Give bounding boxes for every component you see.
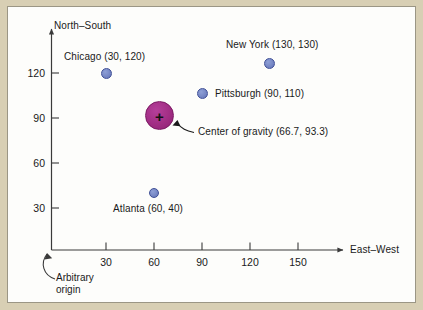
data-label-new-york: New York (130, 130) xyxy=(226,39,319,50)
data-label-pittsburgh: Pittsburgh (90, 110) xyxy=(215,88,304,99)
data-label-chicago: Chicago (30, 120) xyxy=(64,51,145,62)
data-point-center-of-gravity[interactable]: + xyxy=(145,101,174,130)
plot-panel: North–South East–West 120 90 60 30 30 60… xyxy=(7,6,416,303)
x-tick-label-30: 30 xyxy=(91,256,121,268)
x-tick-label-150: 150 xyxy=(283,256,313,268)
data-label-atlanta: Atlanta (60, 40) xyxy=(113,203,183,214)
y-tick-label-60: 60 xyxy=(15,157,45,169)
x-tick-label-90: 90 xyxy=(187,256,217,268)
x-tick-label-120: 120 xyxy=(235,256,265,268)
x-axis-label: East–West xyxy=(350,244,399,255)
y-tick-label-90: 90 xyxy=(15,112,45,124)
data-point-atlanta[interactable] xyxy=(149,188,159,198)
data-point-chicago[interactable] xyxy=(101,68,112,79)
arbitrary-origin-line1: Arbitrary xyxy=(56,272,94,284)
data-point-new-york[interactable] xyxy=(264,58,275,69)
data-point-pittsburgh[interactable] xyxy=(197,88,208,99)
cog-leader-arrowhead xyxy=(173,120,181,126)
figure-frame: North–South East–West 120 90 60 30 30 60… xyxy=(0,0,423,310)
y-tick-label-30: 30 xyxy=(15,202,45,214)
x-tick-label-60: 60 xyxy=(139,256,169,268)
arbitrary-origin-line2: origin xyxy=(56,284,94,296)
arbitrary-origin-note: Arbitrary origin xyxy=(56,272,94,295)
data-label-center-of-gravity: Center of gravity (66.7, 93.3) xyxy=(198,126,328,137)
y-tick-label-120: 120 xyxy=(15,67,45,79)
center-of-gravity-plus-icon: + xyxy=(155,109,164,124)
y-axis-label: North–South xyxy=(54,20,111,31)
